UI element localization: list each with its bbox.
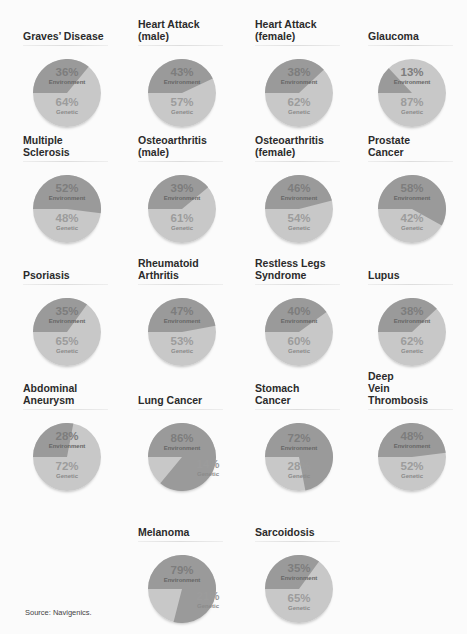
chart-title: Multiple Sclerosis [23, 134, 70, 158]
genetic-percent: 62% [259, 97, 339, 109]
environment-percent: 38% [372, 306, 452, 318]
environment-caption: Environment [27, 318, 107, 324]
environment-label: 52%Environment [27, 183, 107, 201]
pie-chart: 38%Environment62%Genetic [265, 59, 333, 127]
environment-label: 48%Environment [372, 431, 452, 449]
environment-caption: Environment [259, 195, 339, 201]
environment-label: 13%Environment [372, 67, 452, 85]
chart-title: Melanoma [138, 526, 189, 538]
title-divider [138, 161, 223, 162]
genetic-percent: 42% [372, 213, 452, 225]
genetic-caption: Genetic [372, 473, 452, 479]
environment-percent: 35% [27, 306, 107, 318]
chart-title: Rheumatoid Arthritis [138, 257, 199, 281]
environment-caption: Environment [259, 318, 339, 324]
pie-chart: 35%Environment65%Genetic [265, 555, 333, 623]
environment-label: 38%Environment [372, 306, 452, 324]
environment-percent: 39% [142, 183, 222, 195]
genetic-label: 72%Genetic [27, 461, 107, 479]
environment-label: 35%Environment [259, 563, 339, 581]
chart-title-wrap: Prostate Cancer [368, 130, 467, 158]
pie-chart: 36%Environment64%Genetic [33, 59, 101, 127]
environment-caption: Environment [27, 443, 107, 449]
environment-caption: Environment [142, 195, 222, 201]
genetic-percent: 61% [142, 213, 222, 225]
title-divider [138, 541, 223, 542]
chart-title-wrap: Lung Cancer [138, 378, 248, 406]
title-divider [368, 284, 453, 285]
genetic-caption: Genetic [168, 603, 248, 609]
environment-percent: 35% [259, 563, 339, 575]
environment-caption: Environment [372, 443, 452, 449]
genetic-label: 87%Genetic [372, 97, 452, 115]
environment-caption: Environment [27, 79, 107, 85]
genetic-percent: 72% [27, 461, 107, 473]
chart-title: Lupus [368, 269, 400, 281]
environment-percent: 79% [142, 565, 222, 577]
genetic-label: 64%Genetic [27, 97, 107, 115]
environment-percent: 28% [27, 431, 107, 443]
pie-chart: 52%Environment48%Genetic [33, 175, 101, 243]
environment-percent: 72% [259, 433, 339, 445]
chart-title: Heart Attack (male) [138, 18, 199, 42]
genetic-label: 48%Genetic [27, 213, 107, 231]
environment-label: 72%Environment [259, 433, 339, 451]
environment-label: 46%Environment [259, 183, 339, 201]
environment-caption: Environment [27, 195, 107, 201]
environment-label: 38%Environment [259, 67, 339, 85]
genetic-caption: Genetic [168, 471, 248, 477]
environment-caption: Environment [372, 195, 452, 201]
chart-title-wrap: Stomach Cancer [255, 378, 365, 406]
environment-percent: 43% [142, 67, 222, 79]
environment-caption: Environment [142, 577, 222, 583]
title-divider [23, 284, 108, 285]
genetic-caption: Genetic [259, 225, 339, 231]
genetic-percent: 53% [142, 336, 222, 348]
genetic-caption: Genetic [27, 348, 107, 354]
chart-title-wrap: Multiple Sclerosis [23, 130, 133, 158]
chart-title: Prostate Cancer [368, 134, 410, 158]
pie-chart: 72%Environment28%Genetic [265, 423, 333, 491]
chart-title: Heart Attack (female) [255, 18, 316, 42]
environment-caption: Environment [372, 318, 452, 324]
genetic-percent: 57% [142, 97, 222, 109]
genetic-label: 54%Genetic [259, 213, 339, 231]
chart-title: Sarcoidosis [255, 526, 315, 538]
chart-title: Deep Vein Thrombosis [368, 370, 428, 406]
chart-title-wrap: Lupus [368, 253, 467, 281]
genetic-percent: 54% [259, 213, 339, 225]
pie-chart: 43%Environment57%Genetic [148, 59, 216, 127]
chart-title-wrap: Heart Attack (female) [255, 14, 365, 42]
environment-label: 36%Environment [27, 67, 107, 85]
genetic-percent: 28% [259, 461, 339, 473]
genetic-label: 61%Genetic [142, 213, 222, 231]
genetic-percent: 64% [27, 97, 107, 109]
chart-title-wrap: Graves’ Disease [23, 14, 133, 42]
environment-caption: Environment [142, 318, 222, 324]
genetic-label: 60%Genetic [259, 336, 339, 354]
environment-percent: 48% [372, 431, 452, 443]
genetic-label: 28%Genetic [259, 461, 339, 479]
genetic-caption: Genetic [27, 109, 107, 115]
genetic-caption: Genetic [372, 225, 452, 231]
genetic-label: 21%Genetic [168, 591, 248, 609]
genetic-label: 57%Genetic [142, 97, 222, 115]
chart-title: Stomach Cancer [255, 382, 299, 406]
chart-title-wrap: Sarcoidosis [255, 510, 365, 538]
title-divider [368, 45, 453, 46]
genetic-label: 53%Genetic [142, 336, 222, 354]
environment-label: 43%Environment [142, 67, 222, 85]
genetic-caption: Genetic [142, 348, 222, 354]
environment-percent: 40% [259, 306, 339, 318]
genetic-percent: 48% [27, 213, 107, 225]
genetic-percent: 87% [372, 97, 452, 109]
title-divider [255, 284, 340, 285]
genetic-caption: Genetic [259, 605, 339, 611]
title-divider [368, 409, 453, 410]
pie-chart: 86%Environment14%Genetic [148, 423, 216, 491]
environment-percent: 58% [372, 183, 452, 195]
chart-title-wrap: Glaucoma [368, 14, 467, 42]
title-divider [255, 409, 340, 410]
title-divider [138, 45, 223, 46]
genetic-caption: Genetic [259, 348, 339, 354]
